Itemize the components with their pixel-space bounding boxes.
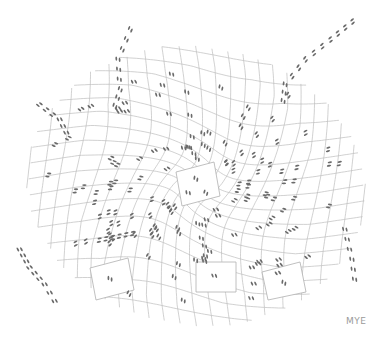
spiral-grid-illustration bbox=[0, 0, 383, 346]
footprints bbox=[16, 18, 357, 305]
artist-signature: MYE bbox=[346, 316, 366, 326]
paper-panels bbox=[90, 162, 306, 300]
